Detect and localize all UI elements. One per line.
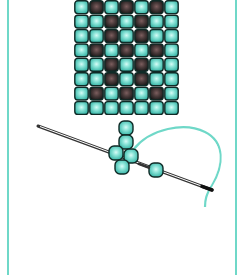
teal-bead: [75, 102, 88, 115]
teal-bead: [75, 87, 88, 100]
teal-bead: [165, 58, 178, 71]
bead-grid: [75, 1, 178, 115]
dark-bead: [105, 73, 118, 86]
dark-bead: [135, 15, 148, 28]
teal-bead: [165, 87, 178, 100]
teal-bead: [165, 44, 178, 57]
teal-bead: [165, 15, 178, 28]
teal-bead: [90, 73, 103, 86]
dark-bead: [105, 15, 118, 28]
teal-bead: [75, 1, 88, 14]
teal-bead: [105, 1, 118, 14]
teal-bead: [105, 102, 118, 115]
teal-bead: [150, 58, 163, 71]
dark-bead: [120, 1, 133, 14]
loose-beads: [109, 121, 163, 177]
teal-bead: [120, 58, 133, 71]
teal-bead: [75, 73, 88, 86]
dark-bead: [150, 44, 163, 57]
peyote-stitch-diagram: [0, 0, 239, 275]
teal-bead: [75, 58, 88, 71]
dark-bead: [150, 1, 163, 14]
teal-bead: [75, 44, 88, 57]
dark-bead: [105, 58, 118, 71]
teal-bead: [150, 102, 163, 115]
dark-bead: [135, 30, 148, 43]
dark-bead: [90, 1, 103, 14]
teal-bead: [150, 30, 163, 43]
dark-bead: [120, 44, 133, 57]
stack-bead-1: [119, 121, 133, 135]
dark-bead: [105, 30, 118, 43]
cluster-bead-left: [109, 146, 123, 160]
dark-bead: [135, 58, 148, 71]
teal-bead: [120, 15, 133, 28]
teal-bead: [165, 73, 178, 86]
cluster-bead-bottom: [115, 160, 129, 174]
dark-bead: [135, 73, 148, 86]
dark-bead: [150, 87, 163, 100]
teal-bead: [165, 1, 178, 14]
dark-bead: [120, 87, 133, 100]
teal-bead: [135, 102, 148, 115]
teal-bead: [90, 15, 103, 28]
dark-bead: [90, 87, 103, 100]
teal-bead: [105, 44, 118, 57]
teal-bead: [120, 73, 133, 86]
needle-bead: [149, 163, 163, 177]
teal-bead: [135, 1, 148, 14]
teal-bead: [165, 102, 178, 115]
teal-bead: [90, 102, 103, 115]
teal-bead: [105, 87, 118, 100]
teal-bead: [135, 87, 148, 100]
teal-bead: [90, 58, 103, 71]
teal-bead: [150, 15, 163, 28]
teal-bead: [135, 44, 148, 57]
teal-bead: [75, 30, 88, 43]
teal-bead: [75, 15, 88, 28]
teal-bead: [150, 73, 163, 86]
teal-bead: [120, 30, 133, 43]
teal-bead: [90, 30, 103, 43]
teal-bead: [120, 102, 133, 115]
teal-bead: [165, 30, 178, 43]
dark-bead: [90, 44, 103, 57]
